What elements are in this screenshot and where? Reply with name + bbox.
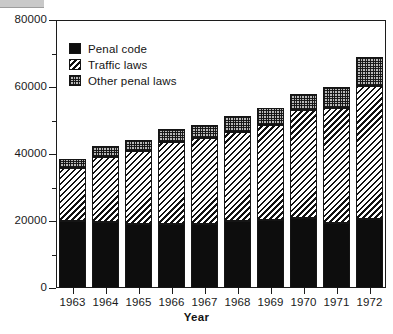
- y-axis-tick: [49, 221, 56, 222]
- stacked-bar-chart-figure: 020000400006000080000 196319641965196619…: [0, 0, 393, 334]
- bar-segment-traffic-laws: [92, 157, 119, 222]
- bar-segment-traffic-laws: [191, 138, 218, 224]
- legend-label: Other penal laws: [88, 75, 177, 87]
- bar-segment-penal-code: [224, 221, 251, 288]
- bar-segment-other-penal-laws: [290, 94, 317, 110]
- bar-segment-other-penal-laws: [191, 125, 218, 138]
- bar-segment-other-penal-laws: [323, 87, 350, 108]
- x-axis-tick-label: 1968: [221, 296, 254, 308]
- legend-item-other-penal-laws: Other penal laws: [69, 73, 177, 88]
- x-axis-tick: [139, 288, 140, 294]
- x-axis-tick-label: 1969: [254, 296, 287, 308]
- bar-segment-traffic-laws: [59, 168, 86, 221]
- x-axis-tick-label: 1970: [287, 296, 320, 308]
- legend-label: Penal code: [88, 43, 147, 55]
- bar-segment-penal-code: [323, 223, 350, 288]
- y-axis-minor-tick: [52, 188, 56, 189]
- legend-item-penal-code: Penal code: [69, 41, 177, 56]
- bar-segment-penal-code: [92, 222, 119, 288]
- bar-segment-penal-code: [59, 221, 86, 288]
- x-axis-tick-label: 1964: [89, 296, 122, 308]
- x-axis-tick: [172, 288, 173, 294]
- x-axis-tick: [106, 288, 107, 294]
- y-axis-tick: [49, 20, 56, 21]
- bar-segment-traffic-laws: [158, 142, 185, 225]
- y-axis-minor-tick: [52, 121, 56, 122]
- bar-segment-penal-code: [356, 219, 383, 288]
- y-axis-tick: [49, 154, 56, 155]
- x-axis-tick: [370, 288, 371, 294]
- bar-segment-traffic-laws: [224, 132, 251, 221]
- y-axis-tick-label: 20000: [0, 214, 47, 226]
- bar-segment-penal-code: [125, 224, 152, 288]
- bar-segment-other-penal-laws: [356, 57, 383, 86]
- bar-segment-traffic-laws: [290, 110, 317, 218]
- bar-segment-traffic-laws: [125, 151, 152, 225]
- y-axis-tick: [49, 87, 56, 88]
- x-axis-tick: [205, 288, 206, 294]
- y-axis-tick: [49, 288, 56, 289]
- bar-segment-other-penal-laws: [92, 146, 119, 157]
- x-axis-tick-label: 1963: [56, 296, 89, 308]
- y-axis-tick-label: 60000: [0, 80, 47, 92]
- x-axis-tick-label: 1972: [353, 296, 386, 308]
- x-axis-tick: [73, 288, 74, 294]
- x-axis-title: Year: [0, 311, 393, 323]
- y-axis-tick-label: 0: [0, 281, 47, 293]
- bar-segment-other-penal-laws: [59, 159, 86, 168]
- chart-legend: Penal code Traffic laws Other penal laws: [69, 41, 177, 89]
- bar-segment-traffic-laws: [257, 125, 284, 220]
- x-axis-tick: [304, 288, 305, 294]
- y-axis-tick-label: 40000: [0, 147, 47, 159]
- bar-segment-other-penal-laws: [125, 140, 152, 151]
- y-axis-minor-tick: [52, 54, 56, 55]
- x-axis-tick: [238, 288, 239, 294]
- legend-label: Traffic laws: [88, 59, 147, 71]
- x-axis-tick-label: 1967: [188, 296, 221, 308]
- y-axis-minor-tick: [52, 255, 56, 256]
- x-axis-tick: [271, 288, 272, 294]
- x-axis-tick-label: 1966: [155, 296, 188, 308]
- scan-artifact: [0, 0, 44, 8]
- bar-segment-penal-code: [158, 224, 185, 288]
- y-axis-tick-label: 80000: [0, 13, 47, 25]
- bar-segment-traffic-laws: [323, 108, 350, 223]
- x-axis-tick-label: 1971: [320, 296, 353, 308]
- checkered-gray-swatch-icon: [69, 75, 81, 86]
- bar-segment-other-penal-laws: [257, 108, 284, 125]
- x-axis-tick-label: 1965: [122, 296, 155, 308]
- bar-segment-penal-code: [290, 218, 317, 288]
- bar-segment-traffic-laws: [356, 86, 383, 218]
- bar-segment-other-penal-laws: [224, 116, 251, 131]
- x-axis-tick: [337, 288, 338, 294]
- solid-black-swatch-icon: [69, 43, 81, 54]
- bar-segment-penal-code: [257, 220, 284, 288]
- bar-segment-penal-code: [191, 224, 218, 288]
- legend-item-traffic-laws: Traffic laws: [69, 57, 177, 72]
- diagonal-hatch-swatch-icon: [69, 59, 81, 70]
- bar-segment-other-penal-laws: [158, 129, 185, 142]
